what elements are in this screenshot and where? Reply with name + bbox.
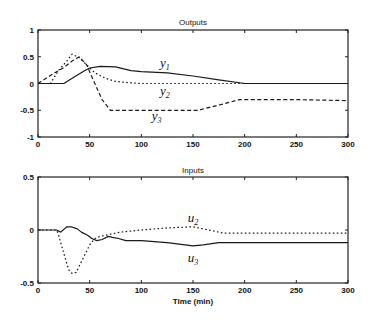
y-tick-label: -0.5 xyxy=(20,106,34,115)
x-tick-label: 100 xyxy=(135,286,149,295)
x-tick-label: 300 xyxy=(341,286,355,295)
series-line-y2 xyxy=(38,54,348,83)
x-tick-label: 250 xyxy=(290,286,304,295)
y-tick-label: 0 xyxy=(30,80,35,89)
series-label-subscript: 1 xyxy=(166,63,170,72)
series-label-subscript: 3 xyxy=(193,258,198,267)
y-tick-label: -0.5 xyxy=(20,279,34,288)
x-tick-label: 300 xyxy=(341,140,355,149)
y-tick-label: 1 xyxy=(30,26,35,35)
series-label-u3: u3 xyxy=(188,250,199,267)
chart-figure: Outputs 050100150200250300 10.50-0.5-1 y… xyxy=(0,0,374,325)
y-tick-label: 0.5 xyxy=(23,53,35,62)
inputs-series-labels: u2u3 xyxy=(188,210,199,267)
y-tick-label: -1 xyxy=(27,133,35,142)
x-tick-label: 200 xyxy=(238,140,252,149)
x-tick-label: 50 xyxy=(85,286,94,295)
y-tick-label: 0 xyxy=(30,226,35,235)
series-line-y1 xyxy=(38,66,348,83)
series-label-y1: y1 xyxy=(158,55,170,72)
outputs-lines xyxy=(38,54,348,110)
x-tick-label: 0 xyxy=(36,286,41,295)
series-label-u2: u2 xyxy=(188,210,199,227)
series-label-subscript: 2 xyxy=(166,91,170,100)
inputs-title: Inputs xyxy=(182,166,204,175)
inputs-x-ticks: 050100150200250300 xyxy=(36,177,355,295)
series-label-y3: y3 xyxy=(150,108,162,125)
series-line-u3 xyxy=(38,227,348,246)
outputs-title: Outputs xyxy=(179,18,207,27)
outputs-series-labels: y1y2y3 xyxy=(150,55,170,124)
x-tick-label: 200 xyxy=(238,286,252,295)
x-tick-label: 150 xyxy=(186,286,200,295)
x-tick-label: 0 xyxy=(36,140,41,149)
x-tick-label: 250 xyxy=(290,140,304,149)
x-tick-label: 100 xyxy=(135,140,149,149)
outputs-panel: Outputs 050100150200250300 10.50-0.5-1 y… xyxy=(20,18,355,149)
x-tick-label: 50 xyxy=(85,140,94,149)
x-tick-label: 150 xyxy=(186,140,200,149)
series-label-subscript: 2 xyxy=(194,218,198,227)
outputs-x-ticks: 050100150200250300 xyxy=(36,30,355,149)
inputs-panel: Inputs 050100150200250300 0.50-0.5 u2u3 … xyxy=(20,166,355,306)
series-label-y2: y2 xyxy=(158,83,170,100)
series-label-subscript: 3 xyxy=(156,116,161,125)
inputs-plot-frame xyxy=(38,177,348,283)
inputs-x-axis-label: Time (min) xyxy=(173,297,214,306)
y-tick-label: 0.5 xyxy=(23,173,35,182)
